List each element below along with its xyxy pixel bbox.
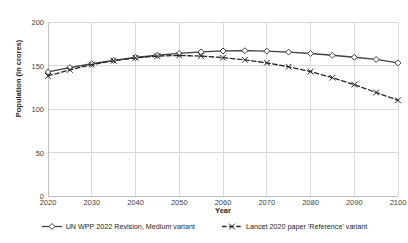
marker-diamond: [395, 60, 401, 66]
data-point-marker: [373, 56, 379, 62]
data-point-marker: [329, 52, 335, 58]
legend-label: UN WPP 2022 Revision, Medium variant: [66, 222, 195, 231]
data-point-marker: [395, 60, 401, 66]
marker-diamond: [242, 48, 248, 54]
legend-item-2[interactable]: Lancet 2020 paper 'Reference' variant: [221, 222, 367, 231]
legend-item-1[interactable]: UN WPP 2022 Revision, Medium variant: [41, 222, 195, 231]
y-axis-tick-label: 200: [18, 18, 44, 27]
marker-diamond: [373, 56, 379, 62]
data-point-marker: [286, 49, 292, 55]
marker-diamond: [351, 54, 357, 60]
data-point-marker: [242, 48, 248, 54]
legend-label: Lancet 2020 paper 'Reference' variant: [246, 222, 367, 231]
population-projection-chart: Population (in crores) 050100150200 2020…: [0, 0, 408, 243]
marker-diamond: [286, 49, 292, 55]
legend-marker-diamond: [49, 224, 55, 230]
data-point-marker: [351, 54, 357, 60]
marker-diamond: [264, 48, 270, 54]
data-point-marker: [220, 48, 226, 54]
y-axis-tick-label: 100: [18, 105, 44, 114]
legend-marker-x-icon: [221, 222, 243, 231]
y-axis-tick-label: 50: [18, 149, 44, 158]
x-axis-title: Year: [48, 206, 398, 215]
marker-diamond: [220, 48, 226, 54]
marker-diamond: [308, 50, 314, 56]
legend-marker-diamond-icon: [41, 222, 63, 231]
y-axis-tick-label: 150: [18, 62, 44, 71]
data-point-marker: [373, 90, 379, 96]
marker-diamond: [329, 52, 335, 58]
chart-legend: UN WPP 2022 Revision, Medium variantLanc…: [0, 222, 408, 231]
marker-diamond: [154, 52, 160, 58]
data-point-marker: [154, 52, 160, 58]
data-point-marker: [264, 48, 270, 54]
data-point-marker: [308, 50, 314, 56]
